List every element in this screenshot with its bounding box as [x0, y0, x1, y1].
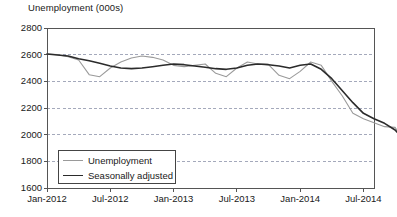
x-axis-tick-label: Jul-2012	[92, 193, 128, 204]
legend-swatch-unemployment	[63, 160, 83, 161]
y-axis-tick-label: 2400	[8, 75, 42, 86]
legend-label-seasonally-adjusted: Seasonally adjusted	[88, 171, 173, 181]
y-axis-tick-label: 2000	[8, 129, 42, 140]
legend-item-seasonally-adjusted: Seasonally adjusted	[63, 168, 171, 183]
y-axis-tick-label: 1600	[8, 182, 42, 193]
y-axis-tick-label: 1800	[8, 155, 42, 166]
legend-label-unemployment: Unemployment	[88, 156, 152, 166]
x-axis-tick-label: Jul-2014	[345, 193, 381, 204]
x-axis-tick-label: Jan-2013	[154, 193, 194, 204]
chart-legend: Unemployment Seasonally adjusted	[58, 150, 176, 184]
y-axis-tick-label: 2600	[8, 49, 42, 60]
x-axis-tick-label: Jan-2014	[280, 193, 320, 204]
legend-item-unemployment: Unemployment	[63, 153, 171, 168]
chart-container: Unemployment (000s) 16001800200022002400…	[0, 0, 397, 217]
y-axis-tick-label: 2800	[8, 22, 42, 33]
legend-swatch-seasonally-adjusted	[63, 175, 83, 176]
chart-plot-area	[0, 0, 397, 217]
x-axis-tick-label: Jul-2013	[219, 193, 255, 204]
x-axis-tick-label: Jan-2012	[27, 193, 67, 204]
y-axis-tick-label: 2200	[8, 102, 42, 113]
